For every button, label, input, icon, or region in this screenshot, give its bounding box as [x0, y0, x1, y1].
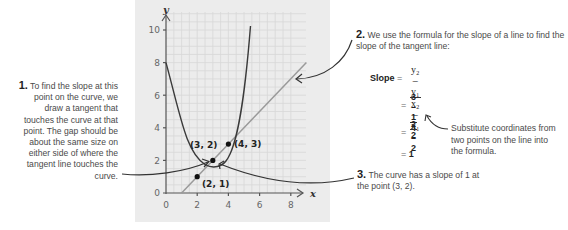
point-3-2	[210, 158, 215, 163]
y-axis-label: y	[162, 4, 170, 15]
point-2-1	[195, 174, 200, 179]
svg-text:(2, 1): (2, 1)	[202, 179, 229, 189]
svg-text:6: 6	[257, 200, 263, 210]
formula-simplified: 2 2	[410, 119, 417, 140]
formula-label: Slope	[370, 73, 395, 83]
svg-text:4: 4	[154, 123, 160, 133]
arrow-substitute-icon	[425, 115, 448, 129]
x-tick-labels: 0 2 4 6 8	[163, 200, 294, 210]
step-3-text: The curve has a slope of 1 at the point …	[357, 170, 479, 191]
step-2-text: We use the formula for the slope of a li…	[356, 30, 564, 51]
svg-text:6: 6	[154, 91, 160, 101]
svg-text:0: 0	[154, 188, 160, 198]
point-4-3	[226, 142, 231, 147]
svg-text:10: 10	[149, 25, 161, 35]
svg-text:2: 2	[194, 200, 200, 210]
step-2-number: 2.	[356, 28, 365, 40]
substitute-note: Substitute coordinates from two points o…	[451, 123, 561, 158]
step-3-note: 3. The curve has a slope of 1 at the poi…	[357, 169, 487, 192]
step-1-text: To find the slope at this point on the c…	[24, 81, 118, 181]
svg-text:(3, 2): (3, 2)	[190, 140, 217, 150]
formula-result: 1	[409, 149, 414, 159]
step-2-note: 2. We use the formula for the slope of a…	[356, 29, 566, 52]
svg-text:8: 8	[288, 200, 294, 210]
step-1-note: 1. To find the slope at this point on th…	[18, 80, 118, 182]
step-1-number: 1.	[19, 79, 28, 91]
svg-text:0: 0	[163, 200, 169, 210]
svg-text:(4, 3): (4, 3)	[234, 139, 261, 149]
svg-text:4: 4	[226, 200, 232, 210]
x-axis-label: x	[309, 188, 317, 199]
step-3-number: 3.	[357, 168, 366, 180]
arrow-3-icon	[219, 161, 354, 183]
grid	[166, 12, 306, 193]
y-tick-labels: 0 2 4 6 8 10	[149, 25, 161, 198]
svg-text:8: 8	[154, 58, 160, 68]
svg-text:2: 2	[154, 156, 160, 166]
